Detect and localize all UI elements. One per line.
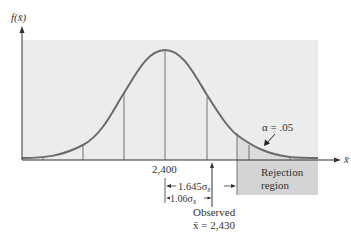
y-axis-arrow-icon	[20, 26, 25, 33]
rejection-label-line1: Rejection	[261, 166, 304, 178]
normal-distribution-diagram: f(x̄) x̄ 2,400 α = .05 Rejection region …	[0, 0, 351, 241]
observed-distance-label: 1.06σx̄	[170, 193, 197, 206]
mean-label: 2,400	[152, 163, 177, 175]
rejection-label-line2: region	[261, 179, 290, 191]
observed-label-line2: x̄ = 2,430	[193, 219, 235, 231]
critical-left-arrowhead-icon	[166, 184, 171, 188]
observed-label-line1: Observed	[193, 206, 236, 218]
observed-arrowhead-icon	[210, 162, 214, 168]
plot-panel	[22, 40, 318, 160]
alpha-label: α = .05	[262, 121, 294, 133]
x-axis-arrow-icon	[334, 158, 341, 163]
observed-right-arrowhead-icon	[208, 197, 212, 200]
x-axis-label: x̄	[343, 153, 349, 165]
critical-right-arrowhead-icon	[231, 184, 236, 188]
y-axis-label: f(x̄)	[11, 11, 27, 24]
